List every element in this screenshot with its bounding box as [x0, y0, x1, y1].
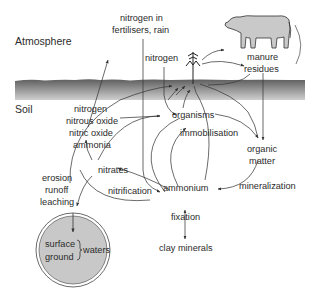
- ammonium-label: ammonium: [163, 183, 208, 194]
- leaching-label: leaching: [40, 197, 74, 208]
- nitrogen-atmosphere-label: nitrogen: [145, 53, 178, 64]
- gas-nitrous-oxide-label: nitrous oxide: [66, 116, 118, 127]
- matter-label: matter: [249, 156, 275, 167]
- residues-label: residues: [244, 64, 279, 75]
- fertilisers-label-line1: nitrogen in: [120, 13, 163, 24]
- ground-waters-label: ground: [45, 252, 74, 263]
- cow-icon: [225, 16, 291, 48]
- erosion-label: erosion: [42, 173, 72, 184]
- fixation-label: fixation: [171, 212, 200, 223]
- organic-label: organic: [247, 144, 277, 155]
- fertilisers-label-line2: fertilisers, rain: [112, 25, 169, 36]
- gas-nitric-oxide-label: nitric oxide: [69, 128, 113, 139]
- plant-icon: [186, 52, 200, 84]
- waters-label: waters: [83, 245, 110, 256]
- gas-ammonia-label: ammonia: [73, 140, 111, 151]
- organisms-label: organisms: [172, 110, 214, 121]
- atmosphere-label: Atmosphere: [15, 36, 72, 47]
- immobilisation-label: immobilisation: [180, 128, 238, 139]
- nitrification-label: nitrification: [108, 186, 152, 197]
- nitrogen-cycle-diagram: Atmosphere Soil nitrogen in fertilisers,…: [0, 0, 313, 303]
- surface-waters-label: surface: [45, 239, 75, 250]
- soil-surface-band: [15, 79, 305, 100]
- nitrates-label: nitrates: [98, 165, 128, 176]
- runoff-label: runoff: [45, 185, 68, 196]
- mineralization-label: mineralization: [239, 181, 296, 192]
- clay-minerals-label: clay minerals: [159, 243, 213, 254]
- soil-label: Soil: [15, 104, 33, 115]
- gas-nitrogen-label: nitrogen: [74, 104, 107, 115]
- manure-label: manure: [247, 52, 278, 63]
